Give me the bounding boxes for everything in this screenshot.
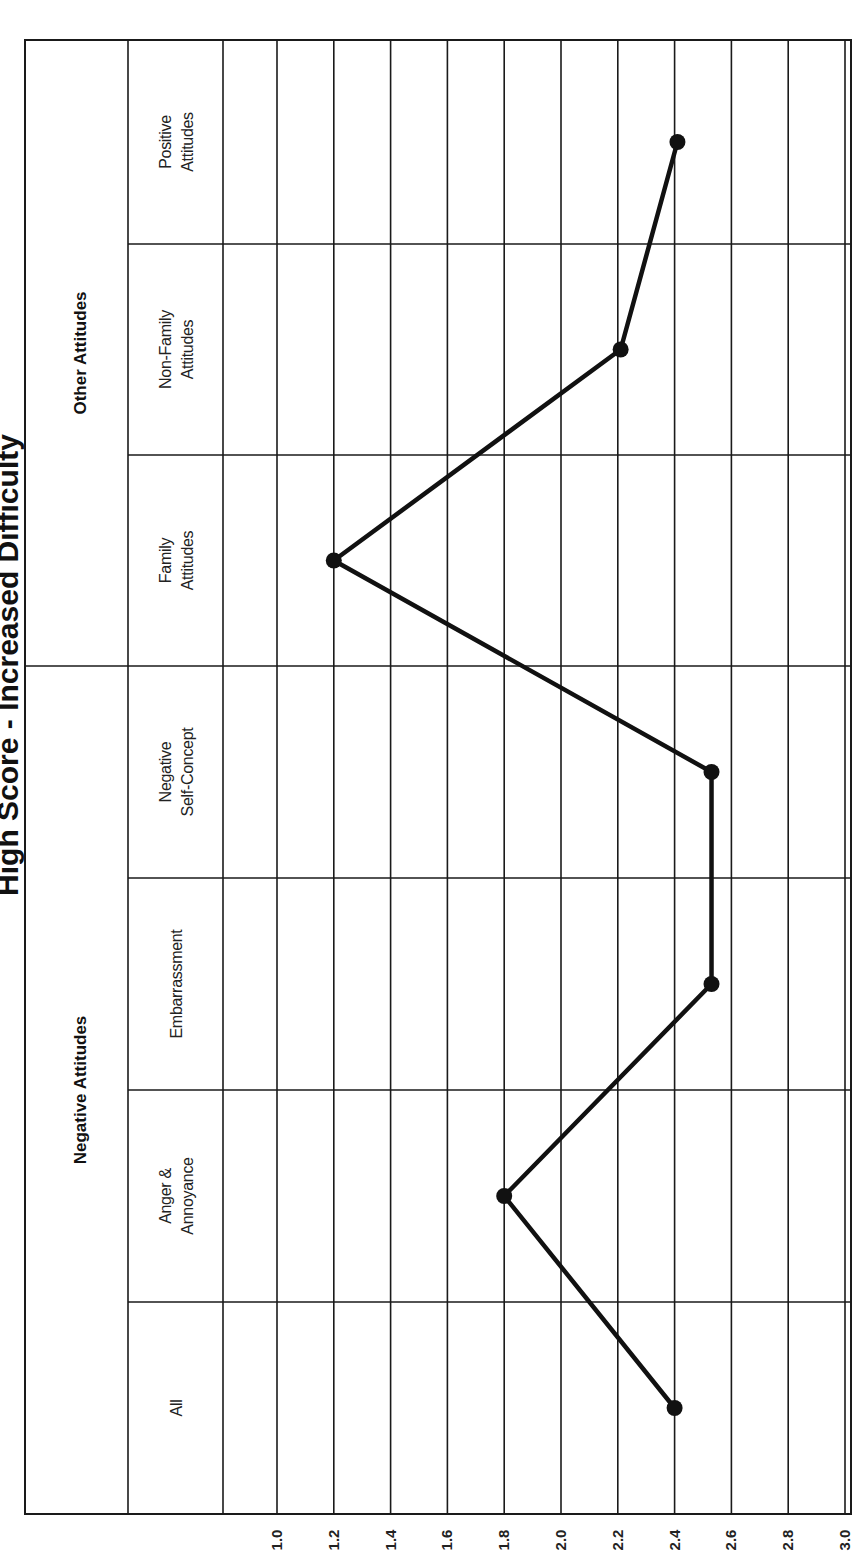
category-label: Negative — [157, 741, 174, 802]
category-label: Attitudes — [179, 530, 196, 590]
chart-border — [25, 40, 851, 1514]
data-point-marker — [613, 342, 629, 358]
data-point-marker — [669, 134, 685, 150]
value-tick-label: 2.4 — [666, 1529, 683, 1551]
value-tick-label: 1.8 — [495, 1530, 512, 1551]
data-point-marker — [704, 764, 720, 780]
value-tick-label: 1.4 — [382, 1529, 399, 1551]
data-point-marker — [704, 976, 720, 992]
line-chart: High Score - Increased Difficulty Other … — [0, 0, 863, 1568]
value-tick-label: 2.8 — [779, 1530, 796, 1551]
chart-title-layer: High Score - Increased Difficulty — [0, 434, 24, 896]
category-label: Family — [157, 538, 174, 584]
value-axis-ticks: 1.01.21.41.61.82.02.22.42.62.83.0 — [268, 1529, 853, 1551]
group-label: Other Attitudes — [71, 291, 90, 414]
category-label: Non-Family — [157, 310, 174, 389]
value-tick-label: 2.6 — [722, 1530, 739, 1551]
category-label: Attitudes — [179, 112, 196, 172]
category-label: Annoyance — [179, 1157, 196, 1235]
category-label: Embarrassment — [168, 929, 185, 1039]
group-label: Negative Attitudes — [71, 1016, 90, 1165]
value-tick-label: 3.0 — [836, 1530, 853, 1551]
chart-title: High Score - Increased Difficulty — [0, 434, 24, 896]
chart-series — [326, 134, 720, 1416]
chart-grid — [25, 40, 851, 1514]
data-point-marker — [496, 1188, 512, 1204]
value-tick-label: 1.2 — [325, 1530, 342, 1551]
category-label: Positive — [157, 115, 174, 169]
value-tick-label: 1.6 — [438, 1530, 455, 1551]
category-label: Anger & — [157, 1168, 174, 1224]
category-label: Attitudes — [179, 319, 196, 379]
value-tick-label: 2.0 — [552, 1530, 569, 1551]
data-point-marker — [667, 1400, 683, 1416]
value-tick-label: 2.2 — [609, 1530, 626, 1551]
chart-labels: Other AttitudesNegative AttitudesPositiv… — [71, 112, 196, 1417]
category-label: Self-Concept — [179, 727, 196, 817]
value-tick-label: 1.0 — [268, 1530, 285, 1551]
data-point-marker — [326, 553, 342, 569]
category-label: All — [168, 1400, 185, 1417]
